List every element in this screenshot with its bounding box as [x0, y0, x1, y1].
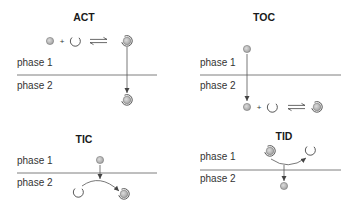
- phase-2-label: phase 2: [17, 177, 53, 188]
- phase-1-label: phase 1: [17, 57, 53, 68]
- phase-2-label: phase 2: [200, 80, 236, 91]
- panel-title: TID: [276, 130, 293, 142]
- ligand-icon: [243, 103, 250, 110]
- reaction-equation: +: [243, 102, 322, 113]
- panel-toc: TOC phase 1 phase 2 +: [200, 11, 341, 112]
- phase-1-label: phase 1: [17, 155, 53, 166]
- panel-title: TOC: [253, 11, 275, 23]
- complex-icon: [265, 146, 275, 157]
- reaction-curve-arrow-icon: [82, 181, 119, 191]
- phase-1-label: phase 1: [200, 151, 236, 162]
- diagram-canvas: ACT + phase 1 phase 2 TOC phase 1 phase …: [0, 0, 351, 209]
- extractant-icon: [305, 147, 315, 156]
- phase-2-label: phase 2: [17, 80, 53, 91]
- panel-tid: TID phase 1 phase 2: [200, 130, 341, 190]
- ligand-icon: [96, 156, 103, 163]
- extractant-icon: [70, 38, 80, 47]
- panel-act: ACT + phase 1 phase 2: [17, 11, 157, 105]
- complex-icon: [119, 189, 129, 200]
- complex-icon: [122, 36, 132, 47]
- phase-2-label: phase 2: [200, 173, 236, 184]
- reaction-equation: +: [46, 36, 132, 47]
- equilibrium-arrows-icon: [288, 103, 305, 110]
- panel-title: ACT: [73, 11, 95, 23]
- plus-sign: +: [257, 103, 262, 112]
- ligand-icon: [280, 182, 287, 189]
- complex-icon: [122, 95, 132, 106]
- reaction-curve-arrow-icon: [271, 158, 306, 165]
- panel-tic: TIC phase 1 phase 2: [17, 133, 157, 199]
- ligand-icon: [243, 45, 250, 52]
- extractant-icon: [267, 104, 277, 113]
- ligand-icon: [46, 37, 53, 44]
- phase-1-label: phase 1: [200, 57, 236, 68]
- equilibrium-arrows-icon: [90, 37, 107, 44]
- extractant-icon: [73, 189, 83, 198]
- plus-sign: +: [60, 37, 65, 46]
- panel-title: TIC: [76, 133, 93, 145]
- complex-icon: [312, 102, 322, 113]
